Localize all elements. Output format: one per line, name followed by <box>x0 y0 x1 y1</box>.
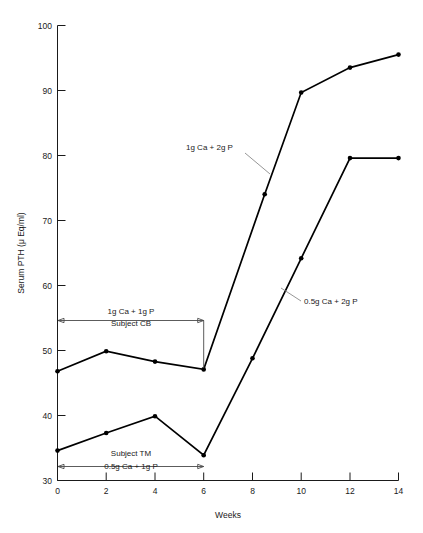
data-point <box>104 431 109 436</box>
x-tick-label-4: 4 <box>153 486 158 496</box>
data-point <box>348 65 353 70</box>
data-point <box>55 369 60 374</box>
x-tick-label-8: 8 <box>250 486 255 496</box>
data-point <box>348 156 353 161</box>
data-point <box>250 356 255 361</box>
data-point <box>104 349 109 354</box>
cb-diet-label: 1g Ca + 1g P <box>108 307 155 316</box>
cb-phase2-leader-line <box>245 153 270 174</box>
y-tick-label-50: 50 <box>43 346 53 356</box>
data-point <box>299 90 304 95</box>
chart-canvas: 100 90 80 70 60 50 40 30 0 2 4 6 8 <box>0 0 423 533</box>
data-point <box>201 453 206 458</box>
x-tick-group <box>58 473 399 481</box>
series-subject-cb <box>55 52 401 373</box>
y-tick-label-30: 30 <box>43 476 53 486</box>
chart-figure: 100 90 80 70 60 50 40 30 0 2 4 6 8 <box>0 0 423 533</box>
y-tick-group <box>58 26 66 481</box>
x-tick-label-6: 6 <box>201 486 206 496</box>
cb-subject-label: Subject CB <box>111 319 151 328</box>
x-tick-label-12: 12 <box>345 486 355 496</box>
tm-subject-label: Subject TM <box>111 449 152 458</box>
cb-phase2-diet-label: 1g Ca + 2g P <box>186 143 233 152</box>
data-point <box>396 156 401 161</box>
data-point <box>262 192 267 197</box>
x-tick-label-14: 14 <box>394 486 404 496</box>
x-tick-label-0: 0 <box>55 486 60 496</box>
tm-diet-label: 0.5g Ca + 1g P <box>104 462 158 471</box>
y-axis-title: Serum PTH (μ Eq/ml) <box>16 212 26 294</box>
tm-phase2-diet-label: 0.5g Ca + 2g P <box>304 297 358 306</box>
data-point <box>299 256 304 261</box>
y-tick-label-70: 70 <box>43 216 53 226</box>
data-point <box>153 414 158 419</box>
x-tick-labels: 0 2 4 6 8 10 12 14 <box>55 486 403 496</box>
series-line-subject-cb <box>58 55 399 372</box>
y-tick-label-60: 60 <box>43 281 53 291</box>
data-point <box>396 52 401 57</box>
x-tick-label-2: 2 <box>104 486 109 496</box>
y-tick-label-90: 90 <box>43 86 53 96</box>
y-tick-label-100: 100 <box>38 21 52 31</box>
y-tick-label-40: 40 <box>43 411 53 421</box>
x-axis-title: Weeks <box>215 510 241 520</box>
axis-group <box>58 26 399 481</box>
x-tick-label-10: 10 <box>296 486 306 496</box>
data-point <box>55 448 60 453</box>
data-point <box>153 359 158 364</box>
y-tick-labels: 100 90 80 70 60 50 40 30 <box>38 21 52 486</box>
y-tick-label-80: 80 <box>43 151 53 161</box>
